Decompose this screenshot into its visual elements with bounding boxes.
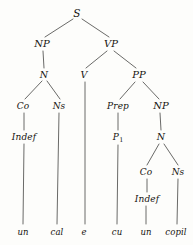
edge-n2-co2	[147, 144, 159, 165]
edge-ns2-copil	[177, 179, 178, 224]
tree-node-p1-subscript: 1	[119, 136, 123, 144]
tree-edges-layer	[0, 0, 193, 245]
tree-node-ns1: Ns	[53, 102, 66, 111]
tree-node-p1: P1	[113, 133, 123, 142]
tree-node-w-cu: cu	[112, 228, 122, 237]
edge-s-vp	[82, 19, 109, 37]
tree-node-n1: N	[40, 70, 48, 80]
tree-node-prep: Prep	[107, 102, 129, 111]
edge-np1-n1	[43, 51, 44, 68]
edge-pp-prep	[120, 82, 135, 99]
edge-ns1-cal	[57, 113, 59, 224]
edge-p1-cu	[117, 145, 118, 224]
tree-node-np2: NP	[153, 101, 169, 111]
tree-node-w-un1: un	[17, 228, 28, 237]
tree-node-indef1: Indef	[12, 133, 36, 142]
tree-node-co1: Co	[17, 102, 30, 111]
tree-node-w-un2: un	[140, 228, 151, 237]
tree-node-w-e: e	[81, 228, 86, 237]
tree-node-np1: NP	[34, 39, 50, 49]
edge-indef1-un	[23, 144, 24, 224]
tree-node-vp: VP	[104, 39, 118, 49]
tree-node-n2: N	[157, 132, 165, 142]
tree-node-s: S	[73, 8, 80, 19]
edge-s-np	[45, 19, 73, 37]
tree-node-v: V	[81, 70, 88, 80]
tree-node-w-copil: copil	[165, 228, 186, 237]
edge-vp-pp	[114, 51, 136, 68]
tree-node-w-cal: cal	[51, 228, 64, 237]
edge-n1-co1	[25, 81, 42, 99]
tree-node-indef2: Indef	[135, 195, 159, 204]
tree-node-ns2: Ns	[172, 168, 185, 177]
tree-node-co2: Co	[140, 168, 153, 177]
edge-pp-np2	[143, 82, 159, 99]
edge-n1-ns1	[47, 81, 60, 99]
edge-n2-ns2	[164, 144, 178, 165]
syntax-tree-diagram: SNPVPNVPPCoNsPrepNPIndefP1NCoNsIndefunca…	[0, 0, 193, 245]
edge-np2-n2	[160, 113, 161, 130]
tree-node-pp: PP	[132, 70, 146, 80]
edge-vp-v	[86, 51, 107, 68]
